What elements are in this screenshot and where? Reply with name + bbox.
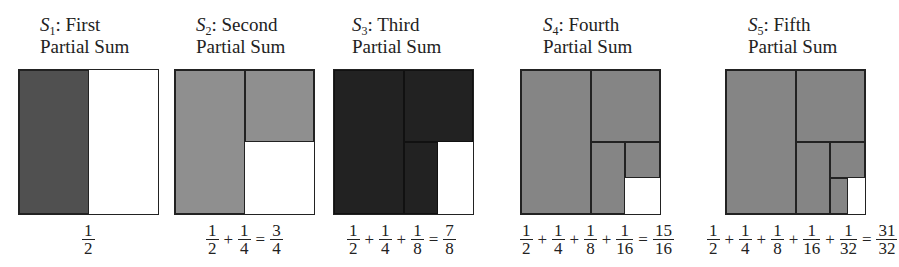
title-ordinal: : Second (212, 14, 278, 35)
shaded-half (175, 70, 245, 214)
equals-sign: = (256, 230, 266, 250)
shaded-quarter (245, 70, 315, 142)
unit-square (725, 69, 866, 215)
shaded-thirty-second (830, 178, 847, 214)
result-fraction: 78 (443, 222, 456, 257)
shaded-quarter (591, 70, 661, 142)
shaded-eighth (796, 142, 831, 214)
sum-symbol: S (748, 14, 758, 35)
shaded-sixteenth (625, 142, 660, 178)
title-ordinal: : Fifth (764, 14, 811, 35)
shaded-half (19, 70, 89, 214)
shaded-quarter (404, 70, 474, 142)
formula: 12 (80, 222, 97, 257)
unit-square (520, 69, 661, 215)
sum-symbol: S (352, 14, 362, 35)
result-fraction: 3132 (876, 222, 897, 257)
shaded-half (726, 70, 796, 214)
shaded-eighth (591, 142, 626, 214)
shaded-half (521, 70, 591, 214)
shaded-eighth (404, 142, 439, 214)
title-ordinal: : First (56, 14, 101, 35)
sum-symbol: S (196, 14, 206, 35)
unit-square (18, 69, 159, 215)
unit-square (174, 69, 315, 215)
formula: 12 + 14 + 18 + 116 + 132 = 3132 (705, 222, 899, 257)
formula: 12 + 14 = 34 (204, 222, 285, 257)
shaded-quarter (796, 70, 866, 142)
sum-symbol: S (543, 14, 553, 35)
result-fraction: 1516 (653, 222, 674, 257)
formula: 12 + 14 + 18 + 116 = 1516 (518, 222, 676, 257)
formula: 12 + 14 + 18 = 78 (345, 222, 458, 257)
sum-symbol: S (40, 14, 50, 35)
unit-square (333, 69, 474, 215)
shaded-sixteenth (830, 142, 865, 178)
title-ordinal: : Third (368, 14, 420, 35)
result-fraction: 34 (270, 222, 283, 257)
fraction-term: 12 (82, 222, 95, 257)
shaded-half (334, 70, 404, 214)
title-ordinal: : Fourth (559, 14, 620, 35)
plus-sign: + (224, 230, 234, 250)
